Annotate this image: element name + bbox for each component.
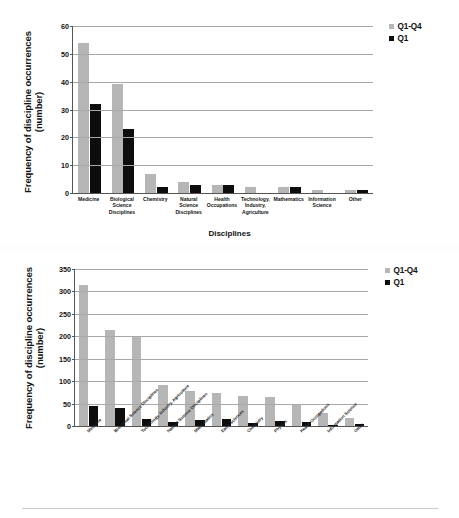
legend-entry-q1: Q1: [385, 278, 418, 287]
y-axis-tick-label: 0: [67, 422, 71, 431]
gridline: [73, 82, 373, 83]
bar-q1: [190, 185, 201, 193]
legend-entry-q1-q4: Q1-Q4: [389, 22, 422, 31]
bar-q1-q4: [212, 393, 222, 426]
y-axis-tick-label: 60: [61, 22, 69, 31]
gridline: [75, 359, 368, 360]
y-axis-tick-label: 50: [61, 49, 69, 58]
top-chart-plot-area: 0102030405060: [72, 26, 373, 194]
top-y-axis-title-line2: (number): [33, 31, 44, 193]
gridline: [75, 314, 368, 315]
y-axis-tick-mark: [72, 359, 75, 360]
bar-q1-q4: [312, 190, 323, 193]
figure-page: Frequency of discipline occurrences (num…: [0, 0, 459, 518]
bar-q1-q4: [265, 397, 275, 426]
bar-q1-q4: [212, 185, 223, 193]
legend-label-q1-q4: Q1-Q4: [398, 22, 422, 31]
y-axis-tick-label: 300: [59, 287, 71, 296]
y-axis-tick-label: 30: [61, 105, 69, 114]
bottom-y-axis-title-line1: Frequency of discipline occurrences: [23, 267, 34, 429]
gridline: [73, 54, 373, 55]
page-bottom-rule: [22, 508, 438, 509]
y-axis-tick-mark: [72, 314, 75, 315]
gridline: [73, 165, 373, 166]
y-axis-tick-label: 50: [63, 399, 71, 408]
gridline: [75, 291, 368, 292]
category-label-line: Disciplines: [101, 209, 142, 215]
y-axis-tick-mark: [72, 269, 75, 270]
legend-label-q1: Q1: [394, 278, 405, 287]
bar-q1: [223, 185, 234, 193]
y-axis-tick-mark: [70, 193, 73, 194]
y-axis-tick-mark: [70, 110, 73, 111]
y-axis-tick-mark: [72, 404, 75, 405]
y-axis-tick-label: 200: [59, 332, 71, 341]
y-axis-tick-mark: [70, 137, 73, 138]
legend-label-q1-q4: Q1-Q4: [394, 266, 418, 275]
bar-q1-q4: [245, 187, 256, 193]
bar-q1-q4: [345, 190, 356, 193]
y-axis-tick-label: 10: [61, 161, 69, 170]
bar-q1: [357, 190, 368, 193]
legend-swatch-q1-icon: [389, 36, 394, 41]
bottom-chart-y-axis-title: Frequency of discipline occurrences (num…: [23, 267, 45, 429]
legend-swatch-q1-icon: [385, 280, 390, 285]
bar-q1: [123, 129, 134, 193]
bar-q1: [90, 104, 101, 193]
gridline: [75, 269, 368, 270]
bottom-y-axis-title-line2: (number): [34, 267, 45, 429]
top-y-axis-title-line1: Frequency of discipline occurrences: [22, 31, 33, 193]
gridline: [75, 381, 368, 382]
legend-entry-q1: Q1: [389, 34, 422, 43]
y-axis-tick-label: 150: [59, 354, 71, 363]
bar-q1-q4: [145, 174, 156, 193]
gridline: [73, 26, 373, 27]
bottom-chart-bars: [75, 269, 368, 426]
y-axis-tick-label: 250: [59, 309, 71, 318]
category-label-line: Science: [301, 202, 342, 208]
bar-q1: [290, 187, 301, 193]
gridline: [75, 336, 368, 337]
bar-q1-q4: [79, 285, 89, 426]
top-bar-chart: Frequency of discipline occurrences (num…: [0, 0, 459, 246]
category-label-line: Disciplines: [168, 209, 209, 215]
bar-q1: [157, 187, 168, 193]
legend-swatch-q1-q4-icon: [385, 268, 390, 273]
y-axis-tick-mark: [70, 165, 73, 166]
y-axis-tick-label: 100: [59, 377, 71, 386]
y-axis-tick-mark: [70, 26, 73, 27]
bar-q1-q4: [112, 84, 123, 193]
category-label-line: Other: [335, 196, 376, 202]
bar-q1-q4: [345, 418, 355, 426]
y-axis-tick-label: 40: [61, 77, 69, 86]
bar-q1-q4: [78, 43, 89, 193]
top-chart-x-axis-title: Disciplines: [0, 229, 459, 238]
y-axis-tick-label: 350: [59, 265, 71, 274]
bottom-chart-legend: Q1-Q4 Q1: [385, 266, 418, 290]
bar-q1-q4: [278, 187, 289, 193]
category-label: Other: [335, 196, 376, 202]
legend-entry-q1-q4: Q1-Q4: [385, 266, 418, 275]
top-chart-y-axis-title: Frequency of discipline occurrences (num…: [22, 31, 44, 193]
bar-q1-q4: [292, 404, 302, 426]
legend-label-q1: Q1: [398, 34, 409, 43]
gridline: [73, 110, 373, 111]
y-axis-tick-mark: [72, 336, 75, 337]
y-axis-tick-mark: [70, 54, 73, 55]
y-axis-tick-mark: [72, 291, 75, 292]
gridline: [73, 137, 373, 138]
y-axis-tick-mark: [70, 82, 73, 83]
legend-swatch-q1-q4-icon: [389, 24, 394, 29]
bar-q1-q4: [105, 330, 115, 426]
category-label-line: Agriculture: [235, 209, 276, 215]
y-axis-tick-mark: [72, 426, 75, 427]
bottom-bar-chart: Frequency of discipline occurrences (num…: [0, 250, 459, 518]
bar-q1-q4: [178, 182, 189, 193]
top-chart-legend: Q1-Q4 Q1: [389, 22, 422, 46]
y-axis-tick-label: 20: [61, 133, 69, 142]
y-axis-tick-mark: [72, 381, 75, 382]
